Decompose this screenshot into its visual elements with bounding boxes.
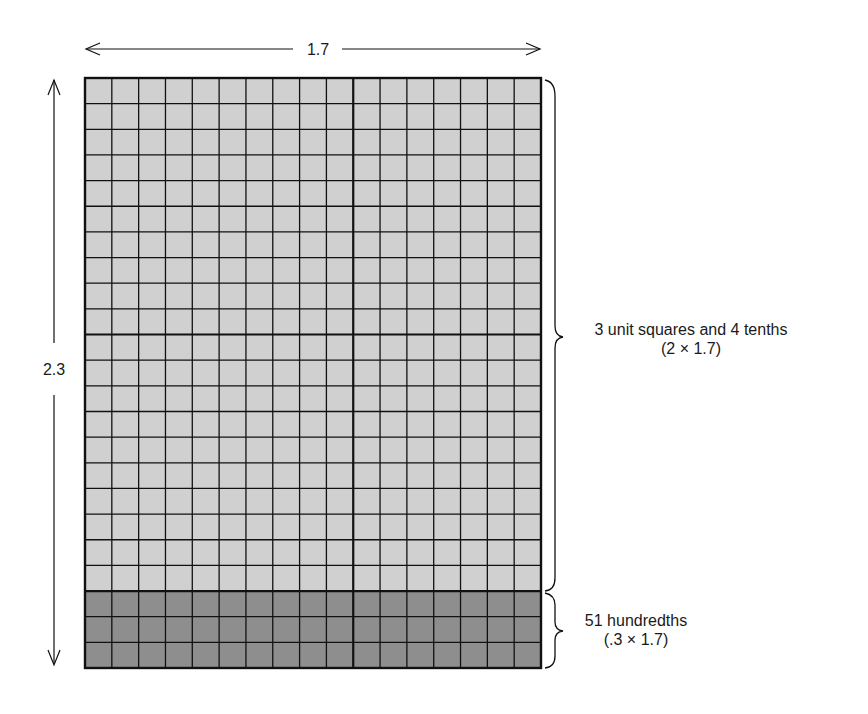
grid xyxy=(85,78,541,668)
lower-brace-line2: (.3 × 1.7) xyxy=(566,630,706,649)
lower-brace-line1: 51 hundredths xyxy=(566,611,706,630)
upper-brace xyxy=(545,80,563,591)
lower-brace xyxy=(545,593,563,668)
shaded-region xyxy=(85,591,541,668)
upper-brace-line1: 3 unit squares and 4 tenths xyxy=(566,320,816,339)
width-label: 1.7 xyxy=(298,40,338,59)
upper-brace-line2: (2 × 1.7) xyxy=(566,339,816,358)
height-label: 2.3 xyxy=(36,360,72,379)
upper-brace-annotation: 3 unit squares and 4 tenths (2 × 1.7) xyxy=(566,320,816,358)
lower-brace-annotation: 51 hundredths (.3 × 1.7) xyxy=(566,611,706,649)
